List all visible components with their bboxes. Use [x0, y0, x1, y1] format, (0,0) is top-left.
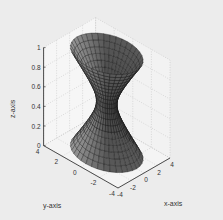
surface-patch — [104, 151, 109, 159]
x-tick-label: 2 — [157, 169, 161, 176]
y-tick-label: -4 — [109, 190, 115, 197]
surface-patch — [108, 104, 110, 109]
y-tick-label: 4 — [36, 148, 40, 155]
surface-patch — [108, 119, 111, 125]
surface-patch — [108, 132, 112, 139]
surface-patch — [110, 165, 117, 172]
surface-patch — [115, 166, 122, 173]
surface-patch — [108, 114, 110, 120]
surface-patch — [109, 145, 114, 152]
surface-patch — [104, 47, 109, 55]
surface-patch — [109, 152, 114, 159]
surface-patch — [101, 137, 105, 145]
surface-patch — [105, 138, 109, 145]
surface-patch — [109, 139, 113, 146]
z-tick-label: 0.6 — [32, 83, 41, 90]
surface-patch — [108, 96, 111, 100]
z-axis-label: z-axis — [9, 99, 16, 118]
z-tick-label: 1 — [37, 44, 41, 51]
surface-patch — [102, 124, 105, 131]
surface-patch — [106, 104, 108, 109]
surface-patch — [104, 108, 106, 114]
surface-patch — [105, 131, 109, 138]
surface-patch — [103, 118, 106, 125]
x-tick-label: -4 — [117, 191, 123, 198]
surface-patch — [110, 104, 112, 109]
x-tick-label: 4 — [170, 161, 174, 168]
surface-patch — [108, 126, 111, 133]
y-tick-label: -2 — [91, 179, 97, 186]
x-tick-label: 0 — [144, 176, 148, 183]
surface-patch — [105, 61, 109, 68]
surface-patch — [106, 119, 109, 126]
y-tick-label: 2 — [54, 158, 58, 165]
surface-patch — [109, 158, 115, 165]
surface-patch — [97, 33, 104, 40]
surface-patch — [104, 103, 106, 108]
z-tick-label: 0.4 — [32, 103, 41, 110]
surface-patch — [108, 109, 110, 114]
surface-plot: 00.20.40.60.81-4-2024-4-2024 x-axis y-ax… — [0, 0, 223, 220]
surface-patch — [108, 93, 111, 97]
surface-patch — [105, 125, 108, 132]
x-axis-label: x-axis — [164, 200, 183, 207]
surface-patch — [104, 157, 110, 165]
surface-patch — [105, 54, 110, 61]
surface-patch — [104, 34, 110, 42]
surface-patch — [106, 108, 108, 114]
surface-patch — [102, 131, 106, 138]
surface-patch — [108, 90, 112, 94]
z-tick-label: 0.2 — [32, 123, 41, 130]
z-tick-label: 0.8 — [32, 64, 41, 71]
x-tick-label: -2 — [130, 184, 136, 191]
surface-patch — [109, 86, 113, 90]
surface-patch — [105, 144, 110, 151]
y-axis-label: y-axis — [43, 202, 62, 210]
surface-patch — [108, 100, 110, 104]
surface-patch — [104, 113, 106, 119]
surface-patch — [110, 109, 112, 114]
surface-patch — [110, 74, 117, 78]
surface-patch — [115, 75, 122, 78]
y-tick-label: 0 — [73, 169, 77, 176]
surface-patch — [106, 96, 109, 100]
